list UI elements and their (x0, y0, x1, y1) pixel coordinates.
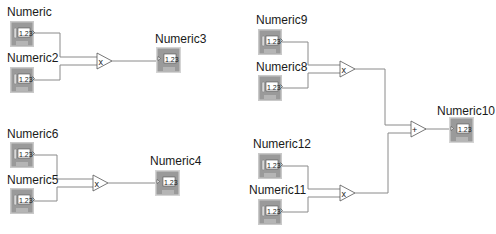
control-label: Numeric5 (7, 173, 59, 187)
value-text: 1.23 (19, 151, 33, 158)
value-text: 1.23 (19, 76, 33, 83)
indicator-label: Numeric4 (150, 154, 202, 168)
multiply-node-1[interactable]: x (97, 53, 112, 69)
operator-symbol: + (412, 125, 417, 135)
control-label: Numeric6 (7, 127, 59, 141)
multiply-node-3[interactable]: x (340, 61, 355, 77)
indicator-label: Numeric3 (155, 32, 207, 46)
control-numeric5[interactable]: Numeric5 1.23 (7, 173, 59, 214)
operator-symbol: x (342, 189, 347, 199)
value-text: 1.23 (19, 30, 33, 37)
value-text: 1.23 (267, 84, 281, 91)
operator-symbol: x (95, 179, 100, 189)
control-numeric9[interactable]: Numeric9 1.23 (256, 13, 308, 55)
add-node[interactable]: + (411, 121, 426, 137)
value-text: 1.23 (267, 38, 281, 45)
operator-symbol: x (342, 65, 347, 75)
multiply-node-4[interactable]: x (340, 185, 355, 201)
value-text: 1.23 (458, 126, 472, 133)
control-numeric6[interactable]: Numeric6 1.23 (7, 127, 59, 168)
value-text: 1.23 (164, 179, 178, 186)
control-label: Numeric12 (253, 137, 311, 151)
operator-symbol: x (99, 57, 104, 67)
block-diagram: Numeric 1.23 Numeric2 1.23 Numeric6 1.23… (0, 0, 496, 234)
control-numeric12[interactable]: Numeric12 1.23 (253, 137, 311, 179)
value-text: 1.23 (19, 197, 33, 204)
control-numeric11[interactable]: Numeric11 1.23 (249, 183, 306, 225)
value-text: 1.23 (165, 56, 179, 63)
control-label: Numeric (7, 5, 52, 19)
control-numeric2[interactable]: Numeric2 1.23 (7, 51, 59, 93)
control-numeric8[interactable]: Numeric8 1.23 (256, 60, 308, 101)
control-label: Numeric11 (249, 183, 306, 197)
value-text: 1.23 (267, 162, 281, 169)
control-label: Numeric2 (7, 51, 59, 65)
indicator-label: Numeric10 (437, 104, 495, 118)
value-text: 1.23 (267, 208, 281, 215)
multiply-node-2[interactable]: x (93, 175, 108, 191)
indicator-numeric4[interactable]: Numeric4 1.23 (150, 154, 202, 196)
indicator-numeric3[interactable]: Numeric3 1.23 (155, 32, 207, 73)
control-numeric[interactable]: Numeric 1.23 (7, 5, 52, 47)
control-label: Numeric9 (256, 13, 308, 27)
control-label: Numeric8 (256, 60, 308, 74)
indicator-numeric10[interactable]: Numeric10 1.23 (437, 104, 495, 143)
